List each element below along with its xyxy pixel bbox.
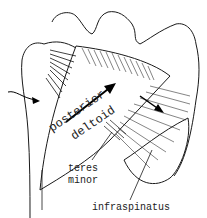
label-minor: minor xyxy=(68,175,98,186)
label-teres: teres xyxy=(68,163,98,174)
label-infraspinatus: infraspinatus xyxy=(92,202,170,213)
infraspinatus-outline xyxy=(124,118,189,184)
humerus-outline xyxy=(22,43,44,218)
shoulder-anatomy-illustration: posterior deltoid teres minor infraspina… xyxy=(0,0,207,218)
